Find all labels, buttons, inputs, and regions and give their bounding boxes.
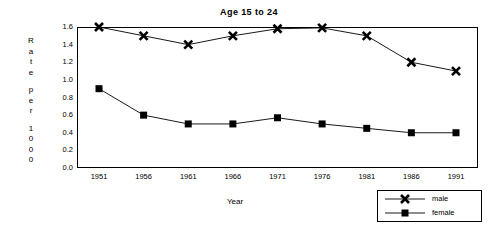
x-axis-tick-label: 1991 xyxy=(436,172,476,181)
legend-item-male[interactable]: male xyxy=(378,192,483,206)
x-axis-tick-label: 1961 xyxy=(168,172,208,181)
y-axis-label-char: r xyxy=(24,106,38,117)
y-axis-tick-label: 0.6 xyxy=(49,111,73,119)
plot-area xyxy=(77,27,478,168)
y-axis-label-char: R xyxy=(24,36,38,47)
y-axis-label-char: t xyxy=(24,57,38,68)
chart-legend: malefemale xyxy=(377,190,482,222)
y-axis-tick-label: 1.4 xyxy=(49,41,73,49)
y-axis-label-char: 0 xyxy=(24,134,38,145)
y-axis-label-char: 1 xyxy=(24,124,38,135)
x-axis-label: Year xyxy=(185,197,285,207)
y-axis-tick-labels: 1.61.41.21.00.80.60.40.20.0 xyxy=(47,0,73,227)
x-axis-tick-label: 1981 xyxy=(347,172,387,181)
y-axis-tick-label: 0.4 xyxy=(49,129,73,137)
y-axis-label-char: e xyxy=(24,68,38,79)
legend-marker-male-icon xyxy=(383,192,427,206)
y-axis-label-char: 0 xyxy=(24,145,38,156)
x-axis-tick-label: 1986 xyxy=(391,172,431,181)
y-axis-tick-label: 1.6 xyxy=(49,23,73,31)
x-axis-tick-label: 1966 xyxy=(213,172,253,181)
y-axis-tick-label: 1.0 xyxy=(49,76,73,84)
legend-label-female: female xyxy=(432,208,455,218)
x-axis-tick-label: 1976 xyxy=(302,172,342,181)
y-axis-tick-label: 1.2 xyxy=(49,58,73,66)
y-axis-label-char: e xyxy=(24,96,38,107)
y-axis-label-char: a xyxy=(24,47,38,58)
y-axis-label-gap xyxy=(24,117,38,124)
x-axis-tick-labels: 195119561961196619711976198119861991 xyxy=(0,172,498,184)
y-axis-label-gap xyxy=(24,78,38,85)
x-axis-tick-label: 1956 xyxy=(124,172,164,181)
legend-marker-female-icon xyxy=(383,206,427,220)
chart-figure: Age 15 to 24 Rateper1000 1.61.41.21.00.8… xyxy=(0,0,498,227)
y-axis-label-char: p xyxy=(24,85,38,96)
legend-label-male: male xyxy=(432,194,448,204)
y-axis-tick-label: 0.8 xyxy=(49,94,73,102)
y-axis-tick-label: 0.0 xyxy=(49,164,73,172)
y-axis-label: Rateper1000 xyxy=(24,36,38,166)
x-axis-tick-label: 1951 xyxy=(79,172,119,181)
y-axis-label-char: 0 xyxy=(24,155,38,166)
x-axis-tick-label: 1971 xyxy=(258,172,298,181)
y-axis-tick-label: 0.2 xyxy=(49,146,73,154)
legend-item-female[interactable]: female xyxy=(378,206,483,220)
chart-title: Age 15 to 24 xyxy=(0,7,498,18)
